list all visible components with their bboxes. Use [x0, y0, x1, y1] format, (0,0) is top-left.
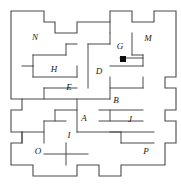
region-label-n: N	[31, 32, 39, 42]
region-label-e: E	[65, 82, 72, 92]
corner-marker	[120, 56, 126, 62]
region-label-h: H	[50, 64, 58, 74]
region-label-b: B	[113, 95, 119, 105]
region-label-m: M	[143, 33, 152, 43]
region-label-o: O	[35, 146, 42, 156]
region-label-d: D	[95, 66, 103, 76]
puzzle-canvas: ABDEGHIJMNOP	[0, 0, 181, 186]
markers-group	[120, 56, 126, 62]
region-label-g: G	[117, 41, 124, 51]
region-label-a: A	[80, 113, 87, 123]
polyomino-figure: ABDEGHIJMNOP	[0, 0, 181, 186]
region-label-p: P	[142, 146, 149, 156]
